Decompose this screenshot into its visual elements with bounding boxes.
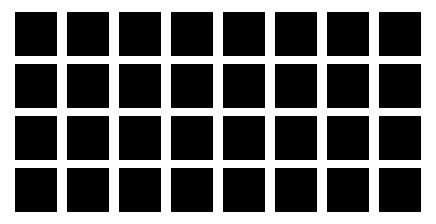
grid-square [327, 116, 369, 160]
grid-square [119, 64, 161, 108]
grid-square [275, 168, 317, 212]
grid-square [223, 12, 265, 56]
grid-square [379, 64, 421, 108]
grid-square [379, 116, 421, 160]
grid-square [171, 12, 213, 56]
grid-square [379, 168, 421, 212]
grid-square [15, 116, 57, 160]
grid-square [327, 64, 369, 108]
grid-square [275, 116, 317, 160]
grid-square [223, 64, 265, 108]
grid-square [119, 168, 161, 212]
square-grid [15, 12, 421, 212]
grid-square [275, 12, 317, 56]
grid-square [15, 12, 57, 56]
grid-square [119, 116, 161, 160]
grid-square [67, 12, 109, 56]
grid-square [275, 64, 317, 108]
grid-square [223, 168, 265, 212]
grid-square [119, 12, 161, 56]
grid-square [327, 168, 369, 212]
grid-square [379, 12, 421, 56]
grid-square [171, 64, 213, 108]
grid-square [67, 168, 109, 212]
grid-square [67, 64, 109, 108]
grid-square [67, 116, 109, 160]
grid-square [15, 64, 57, 108]
grid-square [223, 116, 265, 160]
grid-square [171, 168, 213, 212]
grid-square [327, 12, 369, 56]
grid-square [171, 116, 213, 160]
grid-square [15, 168, 57, 212]
